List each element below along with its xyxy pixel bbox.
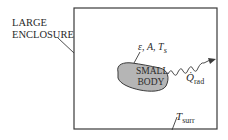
radiation-label: Q̇rad (186, 72, 204, 86)
small-body-label-line1: SMALL (136, 66, 166, 77)
radiation-subscript: rad (194, 77, 204, 86)
tsurr-subscript: surr (182, 116, 194, 125)
small-body-label: SMALL BODY (136, 66, 166, 88)
surrounding-temperature-label: Tsurr (176, 111, 195, 125)
arrowhead-icon (208, 58, 216, 64)
enclosure-label-line1: LARGE (12, 17, 74, 29)
properties-text: ε, A, T (138, 41, 164, 52)
body-properties-label: ε, A, Ts (138, 42, 167, 55)
enclosure-label-line2: ENCLOSURE (12, 29, 74, 41)
enclosure-label: LARGE ENCLOSURE (12, 17, 74, 41)
properties-subscript: s (164, 46, 167, 55)
small-body-label-line2: BODY (136, 77, 166, 88)
radiation-symbol: Q̇ (186, 71, 194, 83)
